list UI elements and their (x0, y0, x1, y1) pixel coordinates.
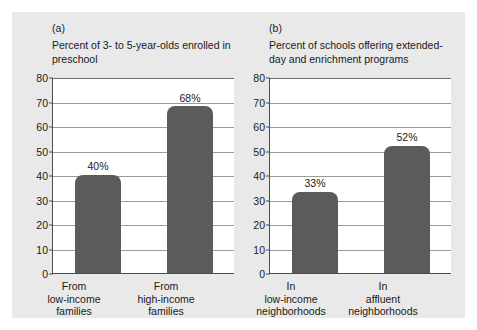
xtick-line-2: affluent (328, 293, 438, 306)
ytick-label-40: 40 (18, 170, 48, 182)
panel-letter-a: (a) (52, 22, 65, 34)
bar-value-label-high-income-families: 68% (155, 92, 225, 104)
gridline-60 (270, 127, 451, 128)
ytick-label-80: 80 (18, 72, 48, 84)
ytick-mark-10 (266, 249, 270, 250)
gridline-70 (270, 103, 451, 104)
ytick-label-60: 60 (235, 121, 265, 133)
ytick-label-0: 0 (235, 268, 265, 280)
bar-low-income-families (75, 175, 121, 273)
ytick-mark-50 (49, 151, 53, 152)
ytick-mark-20 (266, 225, 270, 226)
xtick-label-high-income-families: From high-income families (111, 280, 221, 318)
xtick-line-2: high-income (111, 293, 221, 306)
xtick-line-3: neighborhoods (328, 305, 438, 318)
ytick-label-70: 70 (18, 97, 48, 109)
ytick-label-30: 30 (18, 195, 48, 207)
ytick-mark-40 (266, 176, 270, 177)
bar-low-income-neighborhoods (292, 192, 338, 273)
xtick-line-3: families (111, 305, 221, 318)
ytick-mark-40 (49, 176, 53, 177)
ytick-label-30: 30 (235, 195, 265, 207)
figure-container: (a) Percent of 3- to 5-year-olds enrolle… (12, 12, 465, 318)
ytick-label-50: 50 (18, 146, 48, 158)
ytick-mark-20 (49, 225, 53, 226)
ytick-mark-70 (49, 102, 53, 103)
plot-area-a: 80 70 60 50 40 30 20 10 0 (52, 78, 234, 274)
ytick-mark-30 (266, 200, 270, 201)
ytick-mark-70 (266, 102, 270, 103)
ytick-label-60: 60 (18, 121, 48, 133)
xtick-line-1: From (111, 280, 221, 293)
bar-high-income-families (167, 106, 213, 273)
ytick-mark-60 (49, 127, 53, 128)
ytick-label-50: 50 (235, 146, 265, 158)
chart-panel-a: (a) Percent of 3- to 5-year-olds enrolle… (24, 12, 238, 318)
ytick-label-70: 70 (235, 97, 265, 109)
ytick-label-10: 10 (18, 244, 48, 256)
panel-letter-b: (b) (269, 22, 282, 34)
bar-affluent-neighborhoods (384, 146, 430, 273)
ytick-mark-30 (49, 200, 53, 201)
ytick-mark-80 (49, 78, 53, 79)
ytick-mark-50 (266, 151, 270, 152)
ytick-label-80: 80 (235, 72, 265, 84)
panel-title-b: Percent of schools offering extended-day… (269, 39, 459, 66)
xtick-label-affluent-neighborhoods: In affluent neighborhoods (328, 280, 438, 318)
bar-value-label-low-income-families: 40% (63, 160, 133, 172)
ytick-label-10: 10 (235, 244, 265, 256)
ytick-mark-0 (49, 274, 53, 275)
ytick-mark-60 (266, 127, 270, 128)
ytick-mark-0 (266, 274, 270, 275)
ytick-label-20: 20 (18, 219, 48, 231)
xtick-line-1: In (328, 280, 438, 293)
ytick-mark-10 (49, 249, 53, 250)
panel-title-a: Percent of 3- to 5-year-olds enrolled in… (52, 39, 242, 66)
ytick-mark-80 (266, 78, 270, 79)
bar-value-label-affluent-neighborhoods: 52% (372, 131, 442, 143)
ytick-label-20: 20 (235, 219, 265, 231)
bar-value-label-low-income-neighborhoods: 33% (280, 177, 350, 189)
ytick-label-40: 40 (235, 170, 265, 182)
plot-area-b: 80 70 60 50 40 30 20 10 0 (269, 78, 451, 274)
ytick-label-0: 0 (18, 268, 48, 280)
chart-panel-b: (b) Percent of schools offering extended… (241, 12, 455, 318)
gridline-80 (53, 78, 234, 79)
gridline-80 (270, 78, 451, 79)
